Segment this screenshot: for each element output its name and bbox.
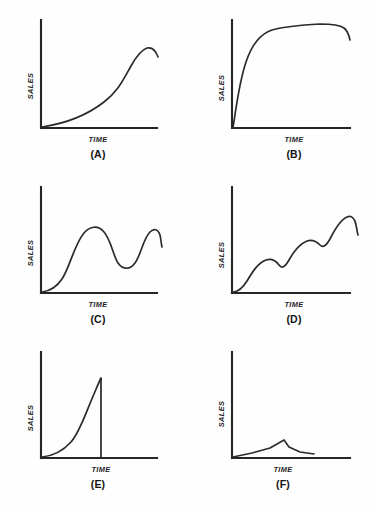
panel-c: SALES TIME (C): [0, 175, 190, 340]
panel-e-y-axis-label: SALES: [26, 405, 35, 431]
panel-e-plot: SALES TIME (E): [0, 340, 190, 508]
panel-e-caption: (E): [91, 478, 106, 490]
panel-c-curve: [42, 227, 162, 292]
panel-f: SALES TIME (F): [190, 340, 375, 508]
panel-c-y-axis-label: SALES: [26, 240, 35, 266]
panel-c-x-axis-label: TIME: [88, 300, 108, 309]
panel-a-plot: SALES TIME (A): [0, 0, 190, 175]
panel-f-y-axis-label: SALES: [217, 401, 226, 427]
panel-a-y-axis-label: SALES: [26, 73, 35, 99]
panel-a-curve: [42, 48, 158, 127]
panel-grid: SALES TIME (A) SALES TIME (B) SALES: [0, 0, 375, 508]
panel-b: SALES TIME (B): [190, 0, 375, 175]
panel-a-x-axis-label: TIME: [88, 135, 108, 144]
figure-sales-time-curves: SALES TIME (A) SALES TIME (B) SALES: [0, 0, 375, 508]
panel-d-plot: SALES TIME (D): [190, 175, 375, 340]
panel-e-x-axis-label: TIME: [91, 465, 111, 474]
panel-b-plot: SALES TIME (B): [190, 0, 375, 175]
panel-b-x-axis-label: TIME: [284, 135, 304, 144]
panel-f-curve: [233, 440, 314, 457]
panel-e: SALES TIME (E): [0, 340, 190, 508]
panel-d-y-axis-label: SALES: [217, 242, 226, 268]
panel-f-plot: SALES TIME (F): [190, 340, 375, 508]
panel-a-caption: (A): [90, 148, 105, 160]
panel-b-curve: [233, 24, 350, 127]
panel-d: SALES TIME (D): [190, 175, 375, 340]
panel-c-plot: SALES TIME (C): [0, 175, 190, 340]
panel-f-x-axis-label: TIME: [273, 465, 293, 474]
panel-e-curve: [42, 378, 101, 457]
panel-d-x-axis-label: TIME: [284, 300, 304, 309]
panel-f-caption: (F): [276, 478, 290, 490]
panel-d-caption: (D): [286, 313, 301, 325]
panel-b-y-axis-label: SALES: [217, 75, 226, 101]
panel-c-caption: (C): [90, 313, 105, 325]
panel-a: SALES TIME (A): [0, 0, 190, 175]
panel-b-caption: (B): [286, 148, 301, 160]
panel-d-curve: [233, 216, 358, 292]
